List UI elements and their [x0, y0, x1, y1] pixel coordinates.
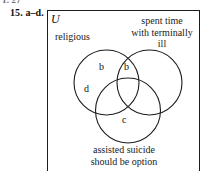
caption-assisted-suicide: assisted suicide should be option [56, 144, 192, 167]
figure-root: 1. 27 15. a–d. U religious spent time wi… [0, 0, 208, 171]
caption-religious: religious [55, 31, 90, 43]
region-label-c-bottom: c [122, 115, 126, 125]
caption-spent-time-line2: with terminally [131, 27, 192, 38]
caption-assisted-line1: assisted suicide [93, 144, 155, 155]
universe-label: U [51, 13, 60, 25]
caption-assisted-line2: should be option [91, 156, 158, 167]
region-label-d-left: d [84, 84, 89, 94]
caption-spent-time: spent time with terminally ill [124, 15, 200, 50]
page-crumb: 1. 27 [2, 0, 21, 5]
region-label-b-left: b [99, 62, 104, 72]
caption-spent-time-line1: spent time [141, 15, 182, 26]
region-label-b-top: b [124, 62, 129, 72]
caption-spent-time-line3: ill [158, 38, 166, 49]
exercise-label: 15. a–d. [10, 7, 44, 18]
